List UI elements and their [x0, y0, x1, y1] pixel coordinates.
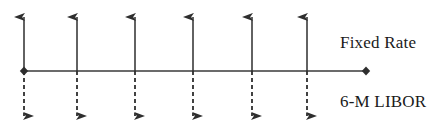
libor-label: 6-M LIBOR [340, 93, 426, 110]
timeline-axis-group [20, 66, 370, 75]
timeline-end-marker [362, 66, 370, 75]
swap-cashflow-diagram: Fixed Rate 6-M LIBOR [0, 0, 448, 132]
fixed-rate-inflow-arrows [24, 17, 307, 71]
libor-outflow-arrows [24, 71, 307, 116]
fixed-rate-label: Fixed Rate [340, 34, 416, 51]
cashflow-timeline-svg [0, 0, 448, 132]
